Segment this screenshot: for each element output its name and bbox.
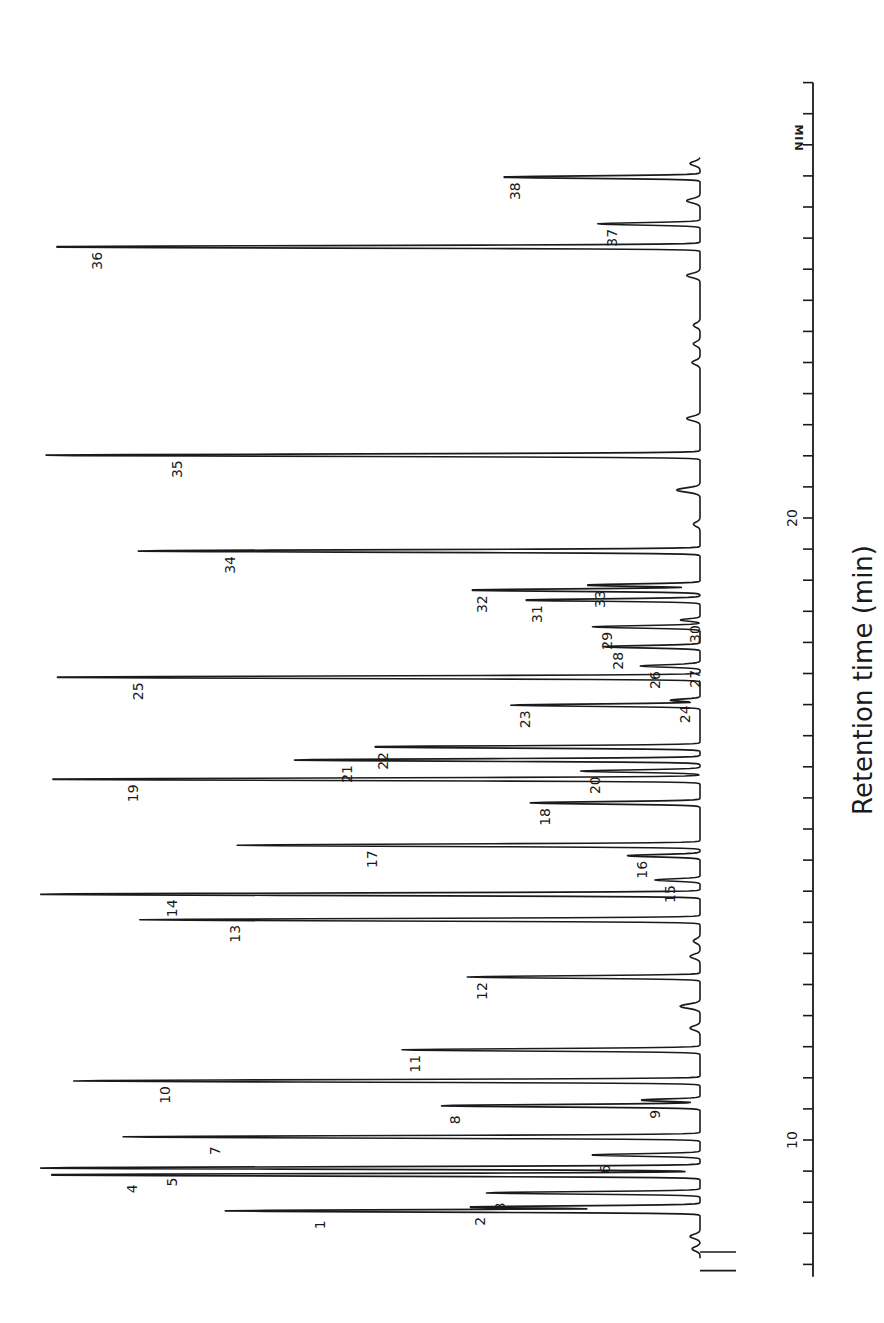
peak-label-8: 8 — [447, 1115, 463, 1124]
peak-label-4: 4 — [124, 1184, 140, 1193]
axis-tick-labels: 1020 — [784, 509, 800, 1149]
axis-unit-label: MIN — [792, 124, 805, 151]
peak-label-3: 3 — [492, 1202, 508, 1211]
peak-label-21: 21 — [339, 765, 355, 783]
peak-label-12: 12 — [474, 982, 490, 1000]
peak-label-31: 31 — [529, 605, 545, 623]
peak-label-6: 6 — [597, 1164, 613, 1173]
axis-ticks — [803, 83, 813, 1265]
chromatogram-chart: 1020 MIN Retention time (min) 1234567891… — [0, 0, 884, 1323]
peak-label-5: 5 — [164, 1178, 180, 1187]
peak-label-38: 38 — [507, 182, 523, 200]
peak-label-11: 11 — [407, 1055, 423, 1073]
peak-label-26: 26 — [647, 671, 663, 689]
peak-label-17: 17 — [364, 850, 380, 868]
peak-label-23: 23 — [517, 710, 533, 728]
peak-label-24: 24 — [677, 705, 693, 723]
peak-label-9: 9 — [647, 1110, 663, 1119]
peak-label-10: 10 — [157, 1086, 173, 1104]
peak-label-34: 34 — [222, 556, 238, 574]
peak-label-27: 27 — [687, 670, 703, 688]
peak-label-13: 13 — [227, 925, 243, 943]
peak-label-7: 7 — [207, 1146, 223, 1155]
peak-label-14: 14 — [164, 899, 180, 917]
injection-marks — [700, 1252, 736, 1271]
signal-trace — [41, 158, 700, 1259]
peak-label-18: 18 — [537, 808, 553, 826]
chromatogram-trace — [41, 158, 736, 1271]
peak-label-25: 25 — [130, 682, 146, 700]
peak-label-2: 2 — [472, 1217, 488, 1226]
peak-label-30: 30 — [687, 625, 703, 643]
peak-label-29: 29 — [599, 632, 615, 650]
peak-label-19: 19 — [125, 784, 141, 802]
peak-label-1: 1 — [312, 1220, 328, 1229]
axis-title: Retention time (min) — [848, 545, 878, 815]
tick-label-10: 10 — [784, 1131, 800, 1149]
peak-label-15: 15 — [662, 885, 678, 903]
peak-labels: 1234567891011121314151617181920212223242… — [89, 182, 703, 1229]
peak-label-37: 37 — [604, 229, 620, 247]
peak-label-20: 20 — [587, 776, 603, 794]
retention-time-axis: 1020 MIN Retention time (min) — [784, 83, 878, 1277]
peak-label-28: 28 — [610, 652, 626, 670]
peak-label-22: 22 — [375, 752, 391, 770]
peak-label-16: 16 — [634, 861, 650, 879]
peak-label-33: 33 — [592, 590, 608, 608]
peak-label-36: 36 — [89, 252, 105, 270]
peak-label-35: 35 — [169, 460, 185, 478]
tick-label-20: 20 — [784, 509, 800, 527]
peak-label-32: 32 — [474, 595, 490, 613]
